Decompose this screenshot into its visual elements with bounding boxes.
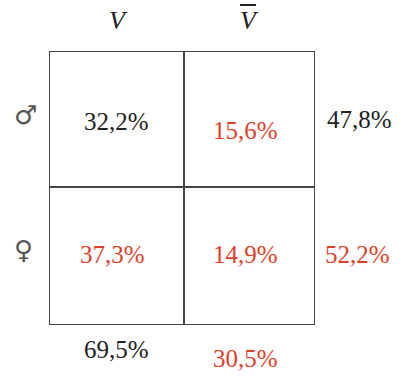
grid-vertical-divider xyxy=(183,51,185,325)
column-header-v: V xyxy=(97,6,137,36)
row-total-male: 47,8% xyxy=(327,106,392,134)
cell-female-v: 37,3% xyxy=(80,241,145,269)
col-total-not-v: 30,5% xyxy=(213,345,278,373)
contingency-grid xyxy=(49,51,315,325)
row-total-female: 52,2% xyxy=(325,241,390,269)
column-header-not-v-label: V xyxy=(240,6,256,35)
cell-male-not-v: 15,6% xyxy=(213,117,278,145)
female-symbol-icon: ♀ xyxy=(14,235,33,265)
cell-male-v: 32,2% xyxy=(84,108,149,136)
grid-horizontal-divider xyxy=(49,186,315,188)
cell-female-not-v: 14,9% xyxy=(213,241,278,269)
male-symbol-icon: ♂ xyxy=(14,100,37,130)
column-header-v-label: V xyxy=(109,6,125,35)
col-total-v: 69,5% xyxy=(84,336,149,364)
column-header-not-v: V xyxy=(228,6,268,36)
